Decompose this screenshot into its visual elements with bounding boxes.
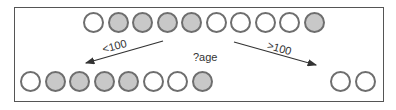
split-feature-label: ?age xyxy=(193,51,217,63)
